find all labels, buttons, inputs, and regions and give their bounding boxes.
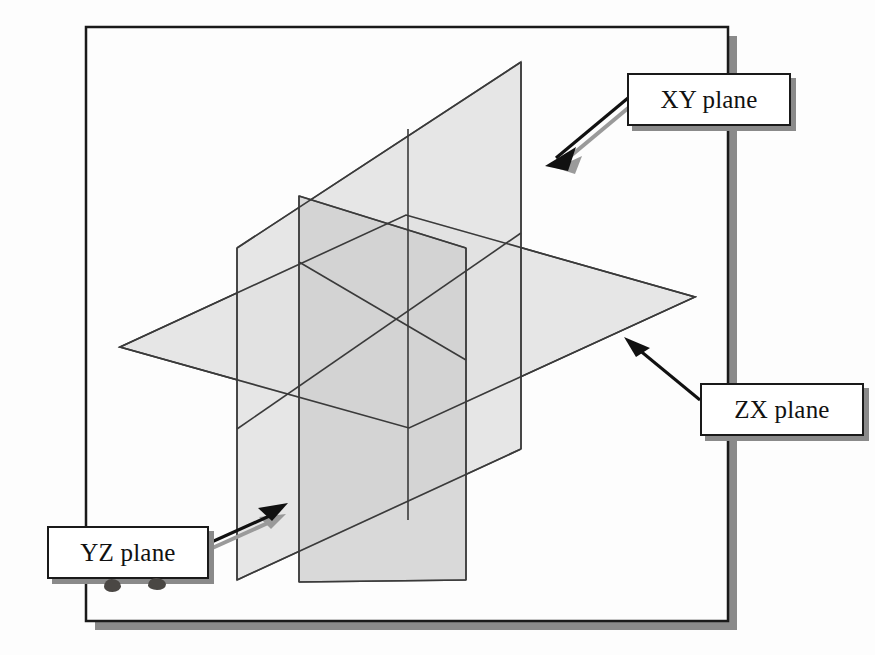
- callout-yz-plane[interactable]: YZ plane: [47, 526, 209, 579]
- figure-page: ation with the coordinate with the same …: [0, 0, 875, 655]
- plane-yz: [299, 196, 466, 582]
- scan-smudge: [148, 578, 166, 590]
- callout-xy-label: XY plane: [660, 86, 757, 114]
- scan-smudge: [104, 579, 121, 592]
- callout-zx-plane[interactable]: ZX plane: [700, 383, 864, 436]
- callout-yz-label: YZ plane: [80, 539, 175, 567]
- callout-zx-label: ZX plane: [734, 396, 829, 424]
- callout-xy-plane[interactable]: XY plane: [627, 73, 791, 126]
